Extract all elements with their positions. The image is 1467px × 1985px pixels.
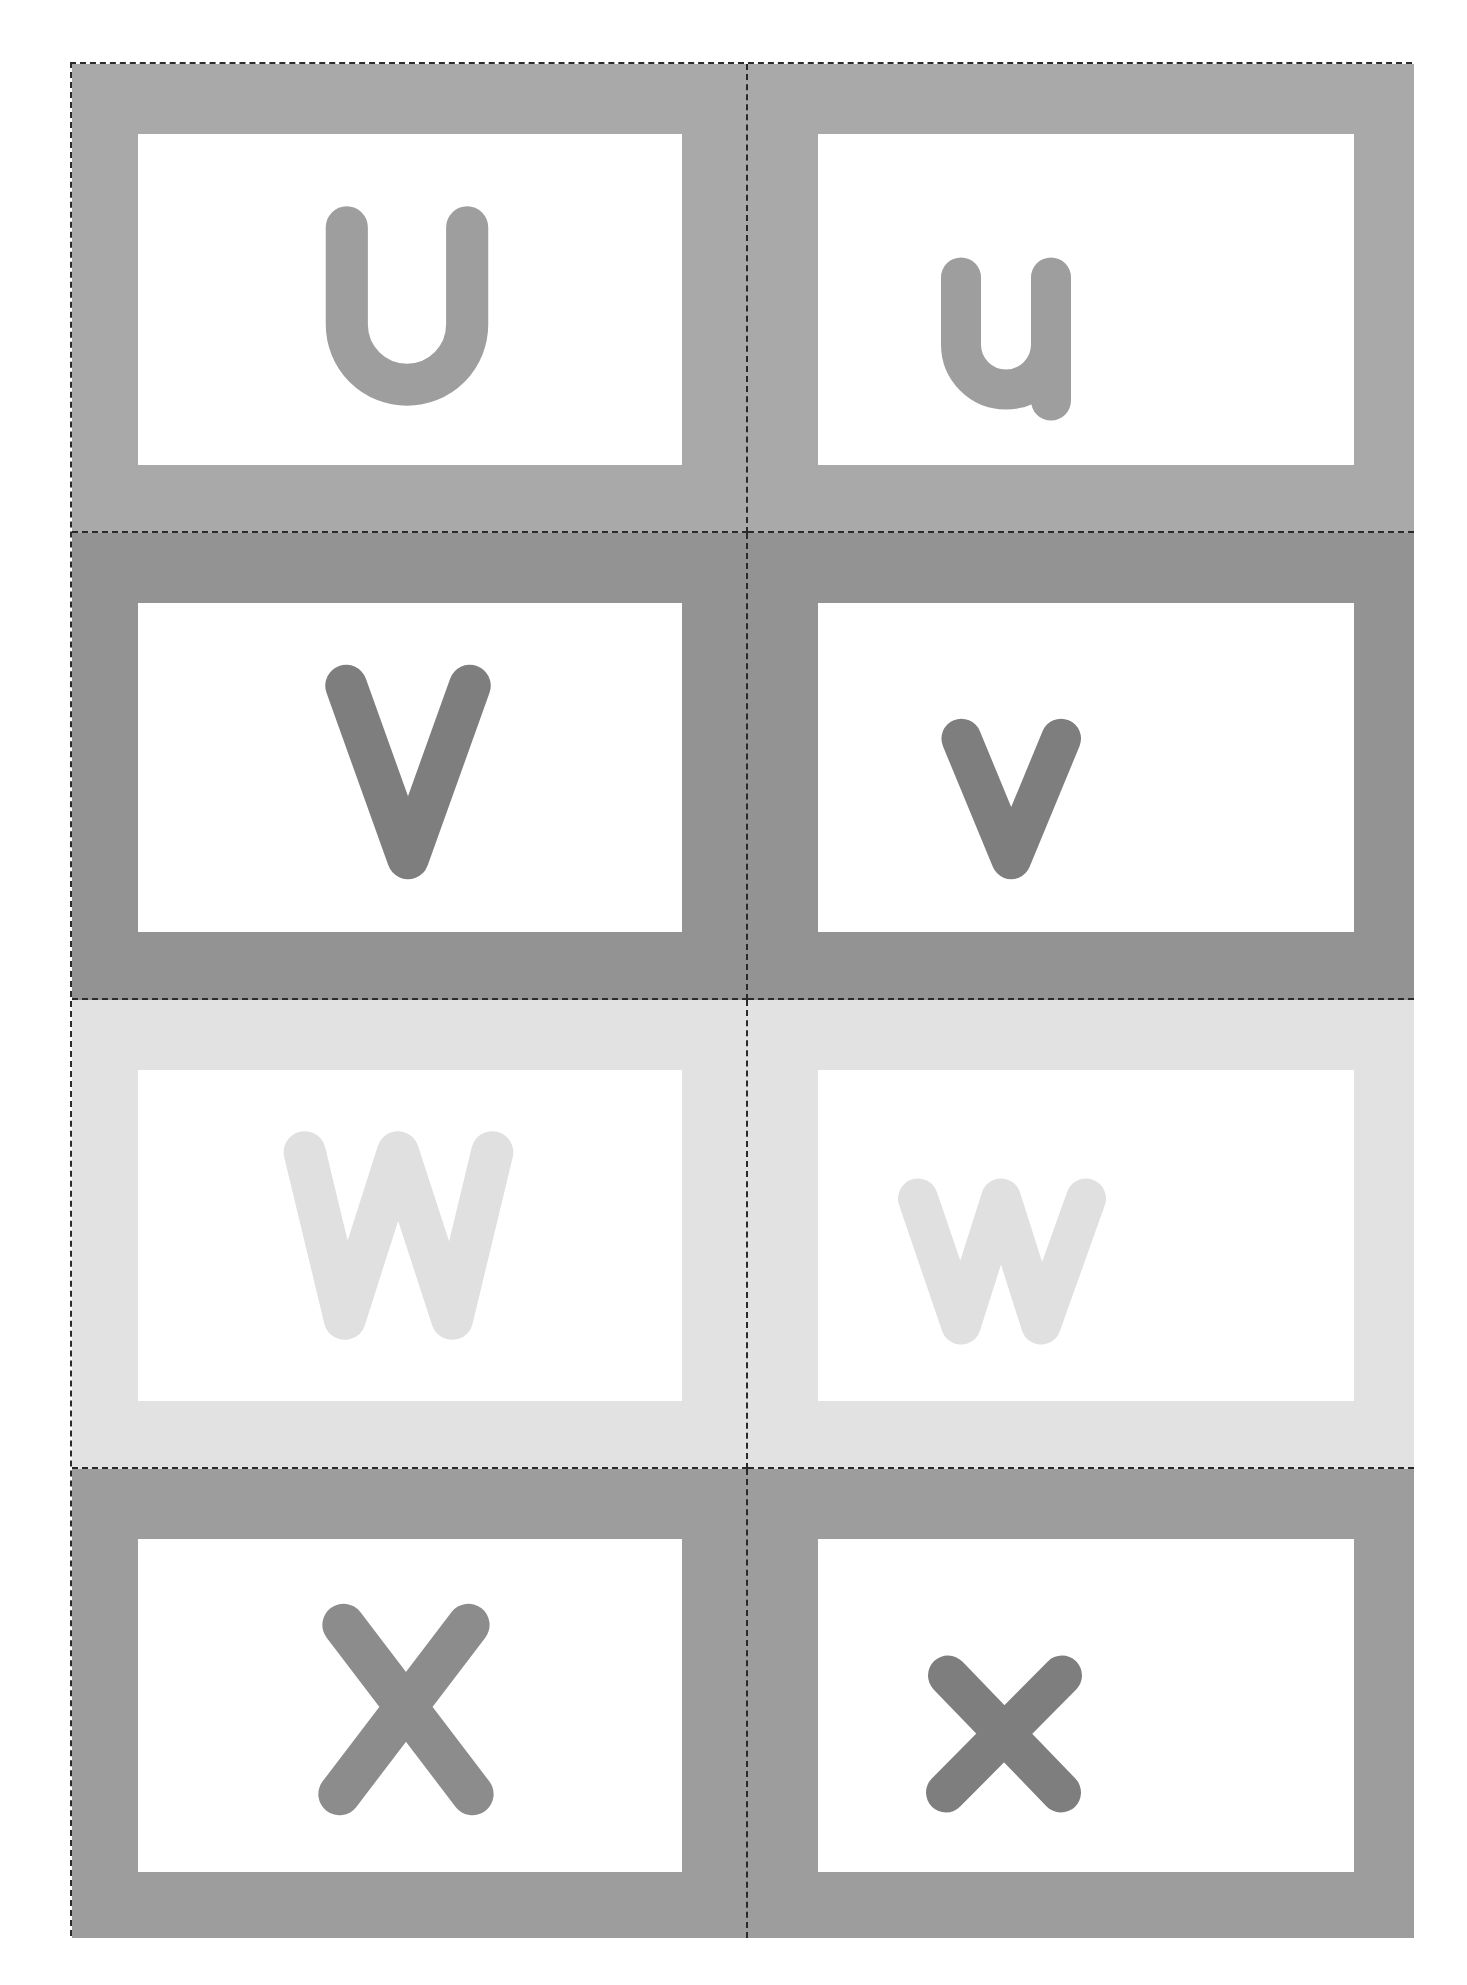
letter-v-glyph: v [818,603,1354,932]
card-lowercase-u: u [748,64,1414,533]
card-face: x [818,1539,1354,1872]
card-face: v [818,603,1354,932]
card-lowercase-v: v [748,533,1414,1000]
letter-x-glyph: x [818,1539,1354,1872]
letter-W-glyph: W [138,1070,682,1401]
flashcard-sheet: U u V v [70,62,1412,1936]
card-face: U [138,134,682,465]
card-face: w [818,1070,1354,1401]
card-face: u [818,134,1354,465]
card-lowercase-x: x [748,1469,1414,1938]
letter-X-glyph: X [138,1539,682,1872]
card-face: X [138,1539,682,1872]
card-lowercase-w: w [748,1000,1414,1469]
card-uppercase-w: W [72,1000,748,1469]
letter-V-glyph: V [138,603,682,932]
letter-U-glyph: U [138,134,682,465]
card-uppercase-u: U [72,64,748,533]
card-uppercase-v: V [72,533,748,1000]
letter-u-glyph: u [818,134,1354,465]
card-face: W [138,1070,682,1401]
card-face: V [138,603,682,932]
card-uppercase-x: X [72,1469,748,1938]
letter-w-glyph: w [818,1070,1354,1401]
